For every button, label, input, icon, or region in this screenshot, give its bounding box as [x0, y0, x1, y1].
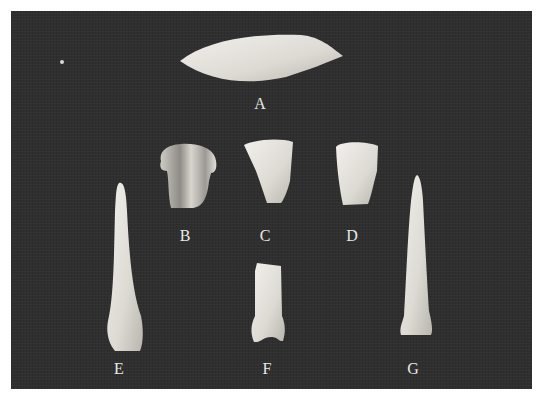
- artifact-b: [160, 144, 216, 208]
- artifact-f: [251, 263, 284, 342]
- label-c: C: [255, 228, 275, 244]
- dust-speck: [60, 60, 64, 64]
- label-a: A: [250, 96, 270, 112]
- label-g: G: [403, 361, 423, 377]
- artifacts-drawing: [11, 11, 532, 389]
- artifact-g: [400, 175, 432, 335]
- artifact-a: [180, 35, 343, 82]
- label-b: B: [175, 228, 195, 244]
- artifact-e: [107, 183, 143, 351]
- artifact-photo: A B C D E F G: [11, 11, 532, 389]
- label-f: F: [257, 361, 277, 377]
- artifact-d: [336, 142, 378, 205]
- label-e: E: [109, 361, 129, 377]
- artifact-c: [244, 140, 293, 203]
- label-d: D: [342, 228, 362, 244]
